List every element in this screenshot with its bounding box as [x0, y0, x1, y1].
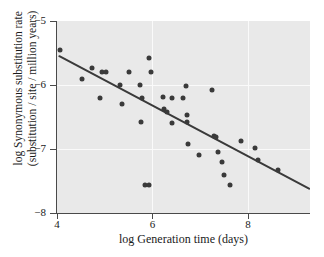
data-point [169, 120, 174, 125]
data-point [126, 70, 131, 75]
data-point [209, 88, 214, 93]
data-point [146, 183, 151, 188]
data-point [147, 56, 152, 61]
data-point [185, 141, 190, 146]
regression-line [57, 21, 310, 213]
data-point [103, 69, 108, 74]
y-axis-title-line1: log Synonymous substitution rate [11, 0, 25, 188]
data-point [238, 138, 243, 143]
data-point [180, 96, 185, 101]
data-point [185, 113, 190, 118]
x-tick-label-0: 4 [54, 219, 60, 230]
data-point [89, 65, 94, 70]
data-point [98, 96, 103, 101]
data-point [276, 168, 281, 173]
y-axis-title: log Synonymous substitution rate (substi… [11, 0, 40, 188]
y-tick-0 [50, 21, 56, 22]
y-axis-title-line2: (substitution / site / million years) [25, 0, 39, 188]
x-tick-label-1: 6 [150, 219, 156, 230]
x-tick-label-2: 8 [245, 219, 251, 230]
data-point [256, 157, 261, 162]
x-axis-title: log Generation time (days) [57, 233, 310, 246]
data-point [139, 120, 144, 125]
data-point [119, 102, 124, 107]
data-point [164, 109, 169, 114]
data-point [222, 172, 227, 177]
y-tick-2 [50, 149, 56, 150]
data-point [58, 47, 63, 52]
data-point [184, 120, 189, 125]
data-point [220, 160, 225, 165]
data-point [79, 77, 84, 82]
x-axis-line [56, 213, 310, 214]
data-point [183, 84, 188, 89]
data-point [227, 182, 232, 187]
data-point [140, 95, 145, 100]
data-point [118, 83, 123, 88]
data-point [216, 149, 221, 154]
data-point [253, 145, 258, 150]
y-tick-1 [50, 85, 56, 86]
data-point [138, 83, 143, 88]
data-point [160, 94, 165, 99]
plot-area [57, 21, 310, 213]
data-point [196, 153, 201, 158]
y-tick-label-3: −8 [6, 207, 46, 218]
data-point [170, 95, 175, 100]
y-tick-3 [50, 213, 56, 214]
data-point [213, 135, 218, 140]
data-point [149, 69, 154, 74]
y-axis-line [56, 21, 57, 214]
scatter-chart-figure: −5−6−7−8 468 log Synonymous substitution… [0, 0, 324, 257]
